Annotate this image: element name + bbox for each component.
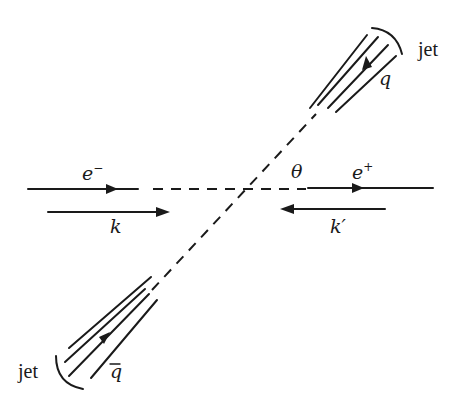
positron-line [308, 183, 433, 193]
electron-line [28, 184, 138, 194]
electron-label: e− [82, 161, 103, 184]
quark-axis-dashed [152, 114, 316, 290]
theta-label: θ [291, 160, 303, 182]
k-label: k [110, 215, 122, 237]
lower-jet-cone-arc [56, 356, 83, 389]
positron-label: e+ [352, 160, 373, 183]
momentum-k-prime-arrow [280, 204, 385, 214]
positron-arrow-icon [352, 183, 364, 193]
k-prime-label: k′ [330, 215, 347, 237]
lower-jet-label: jet [17, 360, 38, 383]
lower-jet [56, 277, 157, 389]
upper-jet-cone-arc [372, 28, 402, 54]
electron-arrow-icon [106, 184, 118, 194]
upper-jet-label: jet [417, 38, 438, 61]
annihilation-diagram: e− k e+ k′ θ q jet q je [0, 0, 472, 411]
k-prime-arrow-icon [280, 204, 294, 214]
momentum-k-arrow [48, 207, 170, 217]
quark-label: q [379, 67, 391, 89]
k-arrow-icon [156, 207, 170, 217]
